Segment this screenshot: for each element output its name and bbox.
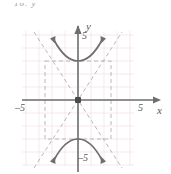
y-tick-label-minus-5: –5 bbox=[78, 152, 88, 163]
x-axis-label: x bbox=[157, 104, 162, 116]
y-tick-label-5: 5 bbox=[82, 30, 87, 41]
hyperbola-figure: 16. y bbox=[0, 0, 171, 174]
x-axis-arrowhead bbox=[153, 96, 161, 103]
origin-marker bbox=[75, 97, 81, 103]
lower-left-arrowhead bbox=[50, 157, 56, 165]
y-axis-arrowhead bbox=[74, 25, 81, 34]
upper-right-arrowhead bbox=[101, 36, 107, 44]
x-tick-label-5: 5 bbox=[138, 102, 143, 113]
upper-left-arrowhead bbox=[50, 36, 56, 44]
x-tick-label-minus-5: –5 bbox=[15, 102, 25, 113]
lower-right-arrowhead bbox=[101, 157, 107, 165]
